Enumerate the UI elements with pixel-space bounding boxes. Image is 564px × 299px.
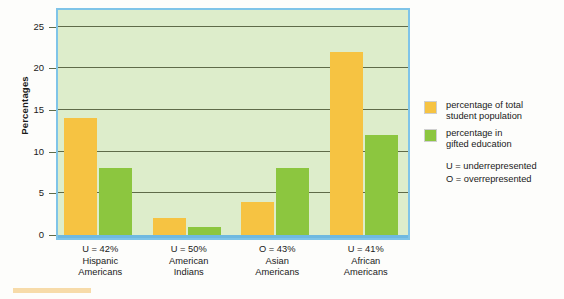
axis-baseline [58,235,408,238]
legend-label-line2: student population [446,111,562,122]
tick-mark-5 [49,193,56,194]
category-percentage: O = 43% [233,244,321,256]
tick-mark-10 [49,152,56,153]
legend-item: percentage ingifted education [424,128,562,151]
category-line1: Asian [233,256,321,268]
bar-group [235,10,324,235]
category-line2: Indians [145,267,233,279]
x-axis-category-label: U = 50%AmericanIndians [145,244,233,279]
tick-mark-15 [49,110,56,111]
chart-legend: percentage of totalstudent populationper… [424,100,562,186]
bar [330,52,363,235]
x-axis-category-label: U = 41%AfricanAmericans [322,244,410,279]
category-line2: Americans [322,267,410,279]
category-percentage: U = 50% [145,244,233,256]
bar-group [147,10,236,235]
legend-label: percentage ingifted education [446,128,562,151]
category-line2: Americans [233,267,321,279]
bar [99,168,132,235]
tick-mark-20 [49,68,56,69]
bar [241,202,274,235]
bar [276,168,309,235]
y-tick-label-25: 25 [14,21,44,32]
y-tick-label-15: 15 [14,104,44,115]
legend-key-line: U = underrepresented [446,160,562,173]
legend-item: percentage of totalstudent population [424,100,562,123]
x-axis-category-label: O = 43%AsianAmericans [233,244,321,279]
y-tick-label-10: 10 [14,146,44,157]
bar [64,118,97,235]
bar [188,227,221,235]
tick-mark-25 [49,27,56,28]
category-line1: American [145,256,233,268]
x-axis-category-labels: U = 42%HispanicAmericansU = 50%AmericanI… [56,244,410,286]
y-tick-label-0: 0 [14,229,44,240]
tick-mark-0 [49,235,56,236]
bar-group [324,10,413,235]
category-line1: Hispanic [56,256,144,268]
legend-label-line1: percentage in [446,128,562,139]
category-percentage: U = 41% [322,244,410,256]
legend-key-line: O = overrepresented [446,173,562,186]
legend-key-notes: U = underrepresentedO = overrepresented [424,160,562,186]
y-tick-label-5: 5 [14,187,44,198]
legend-color-swatch [424,129,437,142]
category-percentage: U = 42% [56,244,144,256]
y-tick-label-20: 20 [14,62,44,73]
legend-items: percentage of totalstudent populationper… [424,100,562,151]
bar [365,135,398,235]
bar-group [58,10,147,235]
category-line2: Americans [56,267,144,279]
legend-label: percentage of totalstudent population [446,100,562,123]
plot-inner [58,10,408,238]
x-axis-category-label: U = 42%HispanicAmericans [56,244,144,279]
category-line1: African [322,256,410,268]
bar-chart-figure: Percentages 0510152025 U = 42%HispanicAm… [0,0,564,299]
legend-color-swatch [424,101,437,114]
legend-label-line2: gifted education [446,139,562,150]
bar [153,218,186,235]
plot-area [56,8,410,240]
decorative-strip [13,288,91,293]
legend-label-line1: percentage of total [446,100,562,111]
